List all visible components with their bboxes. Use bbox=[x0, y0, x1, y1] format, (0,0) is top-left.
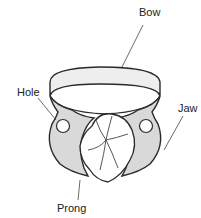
label-bow: Bow bbox=[139, 7, 160, 18]
bow bbox=[50, 67, 160, 114]
clamp-diagram: Bow Hole Jaw Prong bbox=[0, 0, 201, 218]
hole-left bbox=[57, 120, 70, 133]
label-prong: Prong bbox=[57, 203, 86, 214]
label-hole: Hole bbox=[17, 87, 40, 98]
hole-right bbox=[140, 120, 153, 133]
label-jaw: Jaw bbox=[178, 103, 198, 114]
